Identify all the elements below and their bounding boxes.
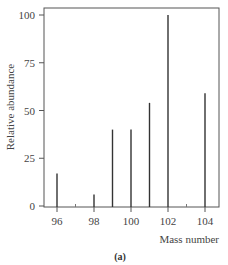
figure-caption: (a)	[114, 251, 126, 263]
y-tick-label: 75	[24, 57, 36, 69]
y-tick-label: 25	[24, 152, 36, 164]
x-tick-label: 100	[123, 215, 140, 227]
x-tick-label: 98	[89, 215, 101, 227]
mass-spectrum-chart: 02550751009698100102104Mass numberRelati…	[0, 0, 228, 265]
y-axis-label: Relative abundance	[4, 64, 16, 151]
x-axis-label: Mass number	[159, 233, 219, 245]
y-tick-label: 100	[19, 9, 36, 21]
x-tick-label: 102	[160, 215, 177, 227]
y-tick-label: 0	[30, 200, 36, 212]
x-tick-label: 104	[197, 215, 214, 227]
x-tick-label: 96	[52, 215, 64, 227]
y-tick-label: 50	[24, 105, 36, 117]
